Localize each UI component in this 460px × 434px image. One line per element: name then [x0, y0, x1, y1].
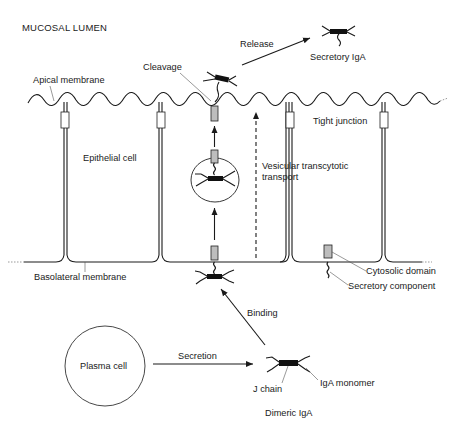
- binding-label: Binding: [247, 308, 278, 318]
- cleavage-label: Cleavage: [143, 62, 182, 72]
- plasma-cell-label: Plasma cell: [80, 361, 127, 371]
- apical-membrane: [28, 92, 440, 105]
- vesicular-transport-label-2: transport: [262, 172, 299, 182]
- vesicle-sc-domain: [211, 150, 218, 163]
- j-chain-label: J chain: [253, 384, 282, 394]
- iga-monomer-label: IgA monomer: [320, 378, 375, 388]
- iga-transcytosis-diagram: MUCOSAL LUMEN Apical membrane Tight junc…: [0, 0, 460, 434]
- apical-membrane-leader: [50, 86, 54, 101]
- apical-membrane-continuation: [440, 98, 448, 101]
- diagram-canvas: MUCOSAL LUMEN Apical membrane Tight junc…: [0, 0, 460, 434]
- secretory-iga-label: Secretory IgA: [310, 52, 367, 62]
- dimeric-iga-icon: [266, 356, 310, 372]
- dimeric-iga-label: Dimeric IgA: [265, 408, 313, 418]
- basolateral-sc-receptor: [211, 246, 218, 260]
- bound-iga-dimer: [195, 270, 234, 284]
- apical-membrane-label: Apical membrane: [33, 75, 105, 85]
- cytosolic-domain-label: Cytosolic domain: [366, 266, 436, 276]
- secretory-iga-icon: [322, 26, 355, 46]
- cleaved-sc-stub: [211, 106, 218, 121]
- j-chain-leader: [282, 366, 288, 383]
- mucosal-lumen-label: MUCOSAL LUMEN: [22, 22, 107, 33]
- epithelial-cell-label: Epithelial cell: [83, 153, 137, 163]
- basolateral-membrane-label: Basolateral membrane: [34, 272, 126, 282]
- cleavage-leader: [180, 73, 211, 101]
- transcytosis-pathway: [191, 106, 256, 284]
- secretory-component-leader: [330, 272, 348, 285]
- secretion-label: Secretion: [178, 351, 217, 361]
- tight-junction-label: Tight junction: [313, 116, 367, 126]
- release-label: Release: [240, 39, 274, 49]
- secretory-component-label: Secretory component: [348, 281, 436, 291]
- iga-monomer-leader: [306, 368, 318, 380]
- vesicular-transport-label-1: Vesicular transcytotic: [262, 161, 349, 171]
